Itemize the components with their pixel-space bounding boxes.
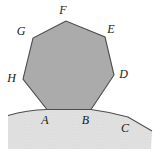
vertex-label-a: A [40,113,49,127]
ground-label-c: C [121,121,130,135]
heptagon-on-hill-diagram: F G E H D A B C [0,0,160,156]
vertex-label-b: B [82,113,90,127]
vertex-label-f: F [58,3,67,17]
vertex-label-g: G [17,24,26,38]
vertex-label-d: D [118,67,128,81]
ground-region [8,110,152,150]
heptagon-shape [23,21,114,110]
vertex-label-h: H [6,71,17,85]
vertex-label-e: E [106,22,115,36]
geometry-figure: F G E H D A B C [0,0,160,156]
